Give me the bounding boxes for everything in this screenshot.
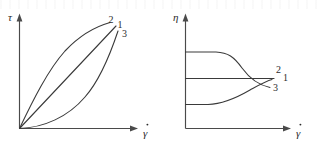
right-x-axis <box>186 126 292 132</box>
right-y-axis-label: η <box>173 11 178 23</box>
left-x-axis-label-overdot <box>146 124 148 126</box>
left-curve-label-2: 2 <box>109 14 114 25</box>
right-curve-label-1: 1 <box>283 72 288 83</box>
right-x-axis-label-overdot <box>299 124 301 126</box>
right-curve-label-3: 3 <box>273 82 278 93</box>
figure-rheology-flow-curves: τ γ 2 1 3 <box>0 0 324 153</box>
left-x-axis-label: γ <box>143 127 148 139</box>
right-curve-label-2: 2 <box>276 64 281 75</box>
panel-viscosity-vs-shear-rate: η γ 2 1 3 <box>166 0 324 153</box>
panel-shear-stress-vs-shear-rate: τ γ 2 1 3 <box>0 0 172 153</box>
right-x-axis-label: γ <box>296 127 301 139</box>
left-y-axis <box>17 14 23 129</box>
left-y-axis-label: τ <box>8 11 13 23</box>
left-x-axis-label-group: γ <box>143 124 148 139</box>
left-curve-2 <box>20 23 111 129</box>
right-y-axis <box>183 14 189 129</box>
right-curve-2 <box>186 52 271 88</box>
left-curve-label-3: 3 <box>122 28 127 39</box>
left-curve-3 <box>20 31 119 129</box>
right-x-axis-label-group: γ <box>296 124 301 139</box>
